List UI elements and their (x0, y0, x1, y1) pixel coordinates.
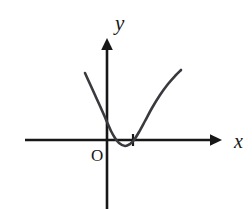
coordinate-plane-figure: y x O (0, 0, 252, 209)
y-axis-label: y (113, 11, 125, 35)
x-axis-label: x (233, 130, 243, 152)
figure-background (0, 0, 252, 209)
origin-label: O (91, 146, 103, 165)
figure-canvas: y x O (0, 0, 252, 209)
